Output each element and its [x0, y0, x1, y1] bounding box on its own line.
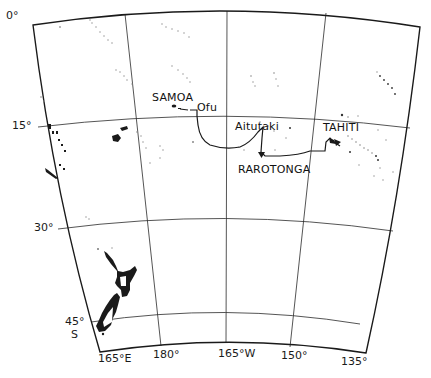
lat-label-0: 0° — [6, 10, 19, 21]
fiji-vanua-levu — [120, 126, 128, 131]
lon-label-135: 135° — [341, 356, 368, 367]
lon-label-165e: 165°E — [98, 353, 131, 364]
fiji-viti-levu — [112, 134, 121, 142]
graticule-meridians — [125, 11, 326, 347]
place-label-ofu: Ofu — [197, 102, 217, 113]
nz-south-island — [96, 293, 120, 332]
island-dots — [40, 19, 396, 248]
parallel-45 — [91, 312, 360, 324]
parallel-30 — [58, 218, 393, 231]
meridian-165w — [226, 11, 227, 342]
place-label-aitutaki: Aitutaki — [235, 121, 279, 132]
place-label-samoa: SAMOA — [152, 92, 193, 103]
nz-north-island — [104, 251, 137, 297]
meridian-150 — [290, 13, 326, 347]
route-samoa-dash — [180, 109, 188, 110]
lon-label-180: 180° — [153, 349, 180, 360]
lat-label-45: 45° — [65, 316, 85, 327]
lat-label-30: 30° — [34, 222, 54, 233]
new-zealand — [96, 248, 137, 335]
lon-label-165w: 165°W — [218, 348, 255, 359]
place-label-tahiti: TAHITI — [323, 122, 359, 133]
vanuatu-island — [48, 124, 51, 129]
lon-label-150: 150° — [281, 350, 308, 361]
meridian-180 — [125, 14, 161, 346]
route-arrowheads — [258, 139, 341, 158]
place-label-rarotonga: RAROTONGA — [238, 164, 310, 175]
lat-label-15: 15° — [12, 120, 32, 131]
lat-label-s: S — [71, 329, 78, 340]
samoa-island — [172, 104, 177, 107]
